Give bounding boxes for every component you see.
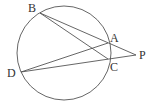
segment-da (21, 43, 108, 72)
segment-bp (40, 13, 136, 55)
geometry-diagram: B A C P D (0, 0, 154, 109)
segment-dp (21, 55, 136, 72)
label-point-d: D (7, 66, 16, 80)
label-point-b: B (28, 1, 36, 15)
circle (17, 6, 111, 100)
label-point-c: C (110, 60, 118, 74)
label-point-p: P (139, 48, 146, 62)
label-point-a: A (110, 31, 119, 45)
